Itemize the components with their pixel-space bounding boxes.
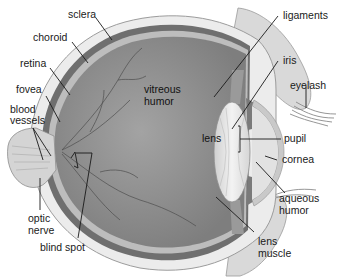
label-optic-nerve-line1: optic bbox=[28, 213, 50, 224]
label-eyelash: eyelash bbox=[290, 80, 326, 91]
label-vitreous-line1: vitreous bbox=[144, 84, 181, 95]
label-ligaments: ligaments bbox=[283, 10, 328, 21]
label-retina: retina bbox=[20, 58, 46, 69]
label-optic-nerve-line2: nerve bbox=[28, 225, 54, 236]
label-choroid: choroid bbox=[33, 32, 67, 43]
eye-diagram: sclera choroid retina fovea blood vessel… bbox=[0, 0, 339, 279]
label-aqueous-humor-line2: humor bbox=[279, 205, 309, 216]
label-aqueous-humor-line1: aqueous bbox=[279, 193, 319, 204]
label-blind-spot: blind spot bbox=[40, 242, 85, 253]
label-cornea: cornea bbox=[282, 154, 314, 165]
label-pupil: pupil bbox=[284, 133, 306, 144]
optic-nerve-shape bbox=[8, 128, 56, 187]
label-iris: iris bbox=[283, 55, 296, 66]
label-vitreous-line2: humor bbox=[144, 96, 174, 107]
label-sclera: sclera bbox=[68, 9, 96, 20]
label-blood-vessels-line2: vessels bbox=[10, 115, 45, 126]
label-fovea: fovea bbox=[16, 84, 42, 95]
label-lens: lens bbox=[202, 133, 221, 144]
lens-shape bbox=[214, 102, 250, 202]
label-lens-muscle-line1: lens bbox=[258, 236, 277, 247]
label-lens-muscle-line2: muscle bbox=[258, 248, 291, 259]
